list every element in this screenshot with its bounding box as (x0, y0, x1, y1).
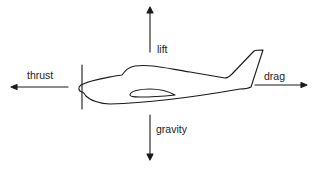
drag-arrow (255, 83, 307, 88)
thrust-label: thrust (27, 70, 53, 81)
gravity-arrow (147, 115, 153, 160)
lift-label: lift (157, 44, 168, 55)
lift-arrow (147, 7, 153, 52)
thrust-arrow (11, 85, 68, 90)
force-diagram (0, 0, 315, 170)
gravity-label: gravity (156, 124, 187, 135)
drag-label: drag (264, 71, 285, 82)
airplane-wing (130, 89, 175, 97)
